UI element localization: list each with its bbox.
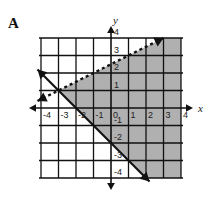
y-tick-label: 1 <box>114 80 119 90</box>
y-tick-label: 2 <box>114 62 119 72</box>
x-tick-label: -2 <box>78 110 86 120</box>
x-axis-label: x <box>197 102 203 114</box>
x-tick-label: 4 <box>183 110 188 120</box>
y-tick-label: -4 <box>114 167 122 177</box>
y-axis-label: y <box>112 14 118 26</box>
graph: -4-3-2-101234-4-3-2-11234xy <box>0 0 212 199</box>
x-tick-label: 3 <box>166 110 171 120</box>
y-tick-label: 3 <box>114 45 119 55</box>
y-tick-label: 4 <box>114 27 119 37</box>
x-tick-label: -4 <box>43 110 51 120</box>
y-tick-label: -2 <box>114 132 122 142</box>
x-tick-label: -3 <box>61 110 69 120</box>
x-tick-label: 2 <box>148 110 153 120</box>
y-tick-label: -1 <box>114 115 122 125</box>
x-tick-label: 1 <box>131 110 136 120</box>
y-axis-arrow-down <box>107 183 115 190</box>
boundary-dashed-arrow-start <box>38 93 48 102</box>
y-tick-label: -3 <box>114 150 122 160</box>
x-axis-arrow-left <box>29 104 36 112</box>
x-tick-label: -1 <box>96 110 104 120</box>
